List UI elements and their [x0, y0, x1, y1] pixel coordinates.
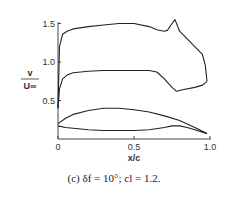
y-axis-label: v U∞	[21, 68, 39, 91]
x-axis-label: x/c	[128, 153, 141, 163]
y-tick-label: 0.5	[42, 96, 55, 106]
y-label-numerator: v	[27, 68, 32, 78]
x-tick-label: 0.5	[128, 142, 141, 152]
x-tick-label: 0	[55, 142, 60, 152]
y-label-denominator: U∞	[24, 81, 37, 91]
x-ticks: 00.51.0	[55, 136, 216, 152]
series-line	[58, 126, 207, 134]
x-tick-label: 1.0	[204, 142, 217, 152]
y-tick-label: 1.5	[42, 19, 55, 29]
series-line	[58, 20, 207, 109]
figure-caption: (c) δf = 10°; cl = 1.2.	[0, 172, 228, 184]
series-lines	[58, 20, 207, 134]
series-line	[58, 71, 207, 109]
y-tick-label: 1.0	[42, 57, 55, 67]
series-line	[58, 108, 207, 133]
